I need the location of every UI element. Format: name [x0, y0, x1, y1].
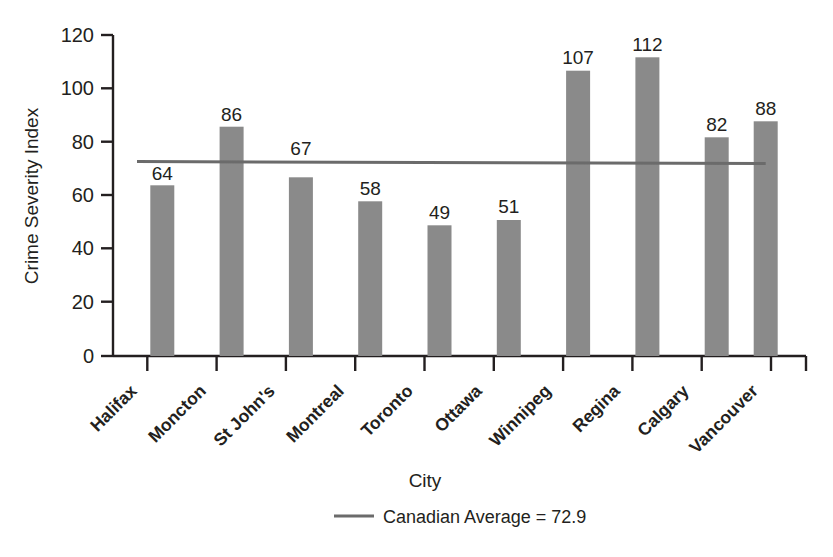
y-tick-label-100: 100: [61, 77, 94, 99]
value-label-st-johns: 67: [290, 138, 311, 159]
value-label-moncton: 86: [221, 104, 242, 125]
bar-calgary[interactable]: [705, 137, 729, 356]
cat-label-ottawa: Ottawa: [430, 381, 486, 437]
bar-winnipeg[interactable]: [566, 71, 590, 356]
chart-legend: Canadian Average = 72.9: [334, 507, 586, 527]
x-axis-ticks: [147, 356, 806, 371]
x-axis-title: City: [409, 470, 442, 491]
bar-toronto[interactable]: [428, 225, 452, 356]
cat-label-calgary: Calgary: [633, 381, 693, 441]
bar-halifax[interactable]: [150, 185, 174, 356]
cat-label-st-johns: St John's: [209, 381, 279, 451]
cat-label-toronto: Toronto: [357, 381, 417, 441]
cat-label-vancouver: Vancouver: [685, 381, 762, 458]
y-tick-label-120: 120: [61, 24, 94, 46]
y-tick-label-80: 80: [72, 131, 94, 153]
cat-label-winnipeg: Winnipeg: [485, 381, 555, 451]
y-tick-label-60: 60: [72, 184, 94, 206]
value-label-calgary: 82: [706, 114, 727, 135]
value-label-montreal: 58: [360, 178, 381, 199]
cat-label-montreal: Montreal: [282, 381, 348, 447]
bar-montreal[interactable]: [358, 201, 382, 356]
value-label-vancouver: 88: [755, 98, 776, 119]
value-label-ottawa: 51: [498, 196, 519, 217]
bar-series: [150, 57, 777, 356]
y-tick-label-40: 40: [72, 237, 94, 259]
cat-label-regina: Regina: [568, 381, 624, 437]
y-axis-tick-labels: 120 100 80 60 40 20 0: [61, 24, 94, 367]
chart-canvas: 120 100 80 60 40 20 0 Crime Severity Ind…: [0, 0, 833, 557]
canadian-average-line: [137, 162, 766, 164]
cat-label-halifax: Halifax: [86, 380, 141, 435]
x-axis-category-labels: Halifax Moncton St John's Montreal Toron…: [86, 380, 762, 457]
value-label-halifax: 64: [152, 163, 174, 184]
value-label-toronto: 49: [429, 202, 450, 223]
bar-st-johns[interactable]: [289, 177, 313, 356]
y-axis-ticks: [101, 35, 113, 356]
crime-severity-index-chart: 120 100 80 60 40 20 0 Crime Severity Ind…: [0, 0, 833, 557]
value-label-winnipeg: 107: [562, 47, 594, 68]
legend-label-canadian-average: Canadian Average = 72.9: [383, 507, 586, 527]
bar-regina[interactable]: [635, 57, 659, 356]
bar-vancouver[interactable]: [754, 121, 778, 356]
cat-label-moncton: Moncton: [144, 381, 210, 447]
bar-ottawa[interactable]: [497, 220, 521, 356]
y-tick-label-20: 20: [72, 291, 94, 313]
y-axis-title: Crime Severity Index: [21, 107, 42, 284]
value-label-regina: 112: [632, 34, 662, 55]
y-tick-label-0: 0: [83, 345, 94, 367]
bar-value-labels: 64 86 67 58 49 51 107 112 82 88: [152, 34, 777, 223]
